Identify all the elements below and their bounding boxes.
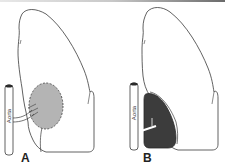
- aorta-label-a: Aorta: [6, 106, 12, 126]
- lung-outline-a: [18, 10, 94, 153]
- mass-a: [29, 83, 63, 129]
- aorta-label-b: Aorta: [131, 103, 137, 123]
- panel-label-a: A: [21, 152, 30, 164]
- lung-diagram: [0, 0, 225, 166]
- panel-label-b: B: [143, 152, 152, 164]
- panel-a: [5, 10, 94, 156]
- panel-b: [130, 8, 218, 151]
